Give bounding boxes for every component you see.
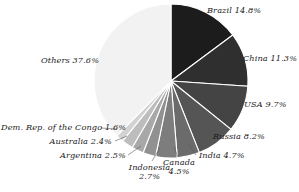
slice-label-indonesia: Indonesia 2.7%: [127, 163, 172, 182]
slice-label-usa: USA 9.7%: [244, 100, 287, 109]
slice-label-argentina: Argentina 2.5%: [58, 151, 126, 160]
slice-label-others: Others 37.6%: [41, 56, 99, 65]
slice-label-india: India 4.7%: [199, 151, 245, 160]
slice-label-china: China 11.3%: [243, 54, 297, 63]
slice-label-congo: Dem. Rep. of the Congo 1.6%: [1, 123, 98, 132]
slice-label-brazil: Brazil 14.8%: [207, 6, 261, 15]
slice-label-australia: Australia 2.4%: [48, 137, 112, 146]
pie-chart: Brazil 14.8% China 11.3% USA 9.7% Russia…: [0, 0, 299, 192]
slice-label-russia: Russia 8.2%: [213, 132, 265, 141]
slice-label-indonesia-value: 2.7%: [139, 171, 160, 181]
